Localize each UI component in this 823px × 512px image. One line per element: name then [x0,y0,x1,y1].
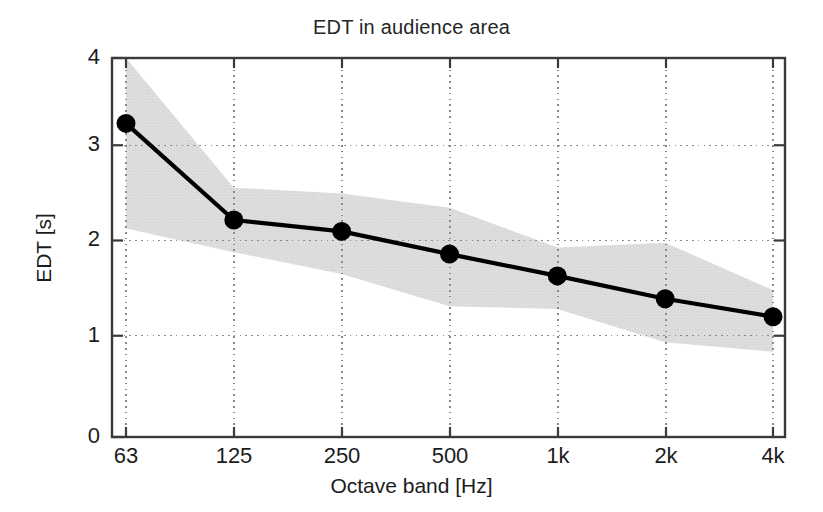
y-axis-label: EDT [s] [32,148,56,348]
x-tick-label-4k: 4k [733,443,813,469]
data-point-marker [117,114,136,133]
data-point-marker [440,245,459,264]
x-tick-label-2k: 2k [626,443,706,469]
plot-area [0,0,823,512]
x-tick-label-125: 125 [194,443,274,469]
data-point-marker [332,222,351,241]
data-point-marker [764,307,783,326]
x-tick-label-250: 250 [302,443,382,469]
x-axis-label: Octave band [Hz] [0,474,823,498]
data-point-marker [224,211,243,230]
y-tick-label-3: 3 [60,131,100,157]
data-point-marker [656,289,675,308]
y-tick-label-4: 4 [60,44,100,70]
y-tick-label-1: 1 [60,322,100,348]
x-tick-label-1k: 1k [518,443,598,469]
figure-canvas: EDT in audience area [0,0,823,512]
y-axis-label-wrap: EDT [s] [6,150,46,350]
y-tick-label-2: 2 [60,226,100,252]
data-point-marker [548,266,567,285]
x-tick-label-500: 500 [410,443,490,469]
x-tick-label-63: 63 [86,443,166,469]
